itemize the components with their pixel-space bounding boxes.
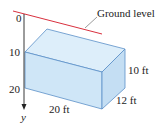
ground-level-leader [85,17,97,28]
axis-variable-label: y [20,111,26,123]
tick-0: 0 [16,12,22,24]
tank-diagram: 0 10 20 y Ground level 10 ft 12 ft 20 ft [0,0,165,128]
tick-20: 20 [9,83,21,95]
length-label: 20 ft [49,103,69,115]
y-axis-arrow-icon [22,104,27,110]
width-label: 12 ft [116,94,136,106]
height-label: 10 ft [128,64,148,76]
ground-level-line [13,11,102,34]
ground-level-label: Ground level [97,7,155,19]
tick-10: 10 [9,46,21,58]
